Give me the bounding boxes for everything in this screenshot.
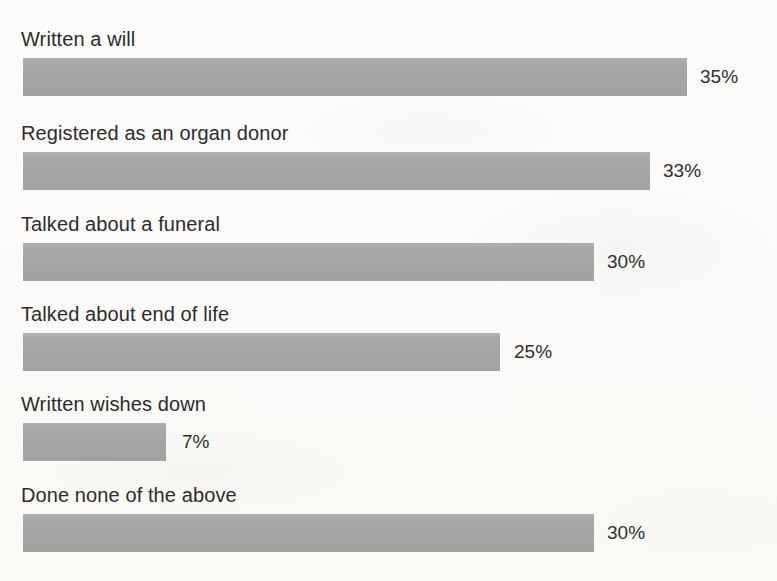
bar-fill <box>23 152 650 190</box>
bar-value-label: 30% <box>607 523 645 543</box>
bar-track: 33% <box>0 152 777 191</box>
bar-fill <box>23 58 687 96</box>
bar-category-label: Talked about a funeral <box>21 213 220 235</box>
bar-value-label: 30% <box>607 252 645 272</box>
bar-fill <box>23 423 166 461</box>
bar-track: 25% <box>0 333 777 372</box>
bar-category-label: Talked about end of life <box>21 303 229 325</box>
bar-category-label: Registered as an organ donor <box>21 122 288 144</box>
bar-track: 35% <box>0 58 777 97</box>
bar-category-label: Done none of the above <box>21 484 237 506</box>
bar-track: 30% <box>0 243 777 282</box>
bar-category-label: Written a will <box>21 28 135 50</box>
bar-track: 7% <box>0 423 777 462</box>
bar-fill <box>23 243 594 281</box>
bar-value-label: 33% <box>663 161 701 181</box>
bar-value-label: 35% <box>700 67 738 87</box>
bar-track: 30% <box>0 514 777 553</box>
bar-fill <box>23 333 500 371</box>
bar-chart: Written a will 35% Registered as an orga… <box>0 0 777 581</box>
bar-value-label: 25% <box>514 342 552 362</box>
bar-category-label: Written wishes down <box>21 393 206 415</box>
bar-fill <box>23 514 594 552</box>
bar-value-label: 7% <box>182 432 209 452</box>
